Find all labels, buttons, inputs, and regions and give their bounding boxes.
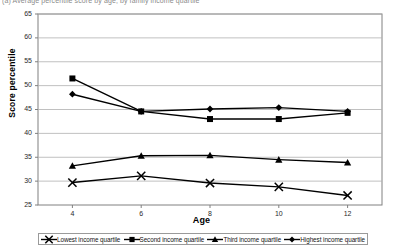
x-tick-label: 10 (267, 210, 291, 217)
triangle-marker-icon (207, 235, 223, 244)
chart-legend: Lowest income quartileSecond income quar… (38, 233, 368, 245)
y-tick-label: 65 (10, 10, 32, 17)
figure-caption: (a) Average percentile score by age, by … (2, 0, 200, 5)
y-tick-label: 35 (10, 153, 32, 160)
y-tick-label: 60 (10, 33, 32, 40)
legend-item-3[interactable]: Highest income quartile (284, 235, 365, 244)
x-tick-label: 12 (336, 210, 360, 217)
x-tick-label: 8 (198, 210, 222, 217)
square-marker-icon (124, 235, 140, 244)
y-tick-label: 30 (10, 177, 32, 184)
x-marker-icon (41, 235, 57, 244)
y-tick-label: 25 (10, 201, 32, 208)
y-tick-label: 40 (10, 129, 32, 136)
legend-item-label: Highest income quartile (300, 236, 365, 243)
y-tick-label: 45 (10, 105, 32, 112)
x-tick-label: 6 (129, 210, 153, 217)
legend-item-2[interactable]: Third income quartile (207, 235, 281, 244)
chart-figure: (a) Average percentile score by age, by … (0, 0, 403, 248)
y-tick-label: 50 (10, 81, 32, 88)
legend-item-0[interactable]: Lowest income quartile (41, 235, 120, 244)
legend-item-label: Lowest income quartile (57, 236, 120, 243)
y-tick-label: 55 (10, 57, 32, 64)
x-tick-label: 4 (60, 210, 84, 217)
diamond-marker-icon (284, 235, 300, 244)
legend-item-label: Third income quartile (223, 236, 281, 243)
legend-item-1[interactable]: Second income quartile (124, 235, 205, 244)
legend-item-label: Second income quartile (140, 236, 205, 243)
